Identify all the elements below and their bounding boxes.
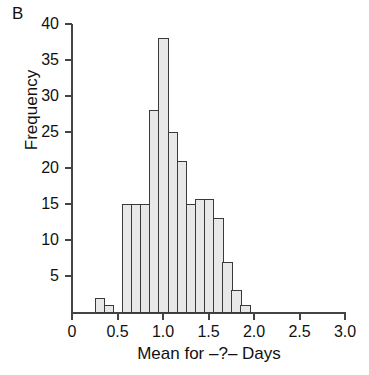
y-tick-label: 20 [25,160,59,176]
x-tick-mark [162,312,164,320]
y-tick-mark [65,203,72,205]
x-tick-mark [344,312,346,320]
y-tick-label: 15 [25,196,59,212]
x-tick-mark [117,312,119,320]
x-tick-label: 0 [50,324,94,340]
y-tick-mark [65,275,72,277]
figure-panel: B Frequency Mean for –?– Days 5101520253… [0,0,369,375]
x-tick-label: 1.5 [187,324,231,340]
histogram-bar [104,305,115,313]
x-tick-label: 0.5 [96,324,140,340]
x-tick-label: 1.0 [141,324,185,340]
y-tick-mark [65,59,72,61]
y-tick-label: 25 [25,124,59,140]
x-tick-mark [71,312,73,320]
x-tick-mark [208,312,210,320]
y-tick-mark [65,239,72,241]
histogram-bar [240,305,251,313]
histogram-plot-area: 51015202530354000.51.01.52.02.53.0 [0,0,369,375]
y-tick-mark [65,131,72,133]
y-tick-mark [65,23,72,25]
y-tick-mark [65,95,72,97]
y-tick-label: 5 [25,268,59,284]
x-tick-mark [253,312,255,320]
y-axis-line [71,24,73,314]
x-tick-label: 3.0 [323,324,367,340]
y-tick-mark [65,167,72,169]
y-tick-label: 40 [25,16,59,32]
y-tick-label: 10 [25,232,59,248]
y-tick-label: 35 [25,52,59,68]
x-tick-label: 2.5 [278,324,322,340]
x-tick-label: 2.0 [232,324,276,340]
y-tick-label: 30 [25,88,59,104]
x-tick-mark [299,312,301,320]
